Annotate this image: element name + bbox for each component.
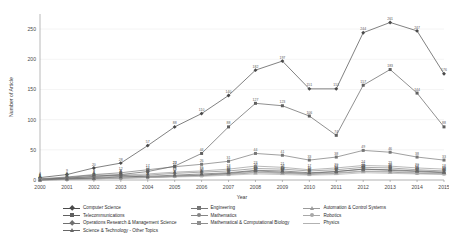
line-chart-svg: 0501001502002502000200120022003200420052…: [0, 0, 449, 200]
x-axis-tick-label: 2007: [223, 184, 234, 190]
legend-item[interactable]: Computer Science: [63, 205, 176, 211]
chart-root: 0501001502002502000200120022003200420052…: [0, 0, 449, 246]
data-point: [308, 159, 311, 162]
legend-item[interactable]: Automation & Control Systems: [303, 205, 386, 211]
data-point-label: 49: [361, 145, 365, 149]
y-axis-tick-label: 100: [28, 117, 37, 123]
x-axis-tick-label: 2003: [115, 184, 126, 190]
data-point: [254, 102, 257, 105]
data-point-label: 44: [200, 148, 204, 152]
data-point: [335, 156, 338, 159]
data-point: [227, 160, 230, 163]
data-point: [389, 68, 392, 71]
legend-label: Mathematical & Computational Biology: [211, 220, 290, 226]
legend-item[interactable]: Science & Technology - Other Topics: [63, 228, 176, 234]
data-point: [253, 173, 258, 174]
data-point: [443, 125, 446, 128]
legend-item[interactable]: Physics: [303, 220, 386, 226]
data-point: [416, 92, 419, 95]
legend-item[interactable]: Engineering: [191, 205, 290, 211]
data-point-label: 106: [306, 111, 312, 115]
data-point: [443, 159, 446, 162]
x-axis-tick-label: 2010: [304, 184, 315, 190]
legend-label: Computer Science: [83, 205, 121, 211]
legend-marker-icon: [63, 213, 80, 219]
data-point: [389, 151, 392, 154]
data-point: [281, 154, 284, 157]
plot-area: 0501001502002502000200120022003200420052…: [0, 0, 449, 200]
y-axis-tick-label: 0: [33, 177, 36, 183]
data-point-label: 10: [200, 169, 204, 173]
y-axis-tick-label: 250: [28, 26, 37, 32]
data-point: [227, 125, 230, 128]
data-point: [199, 176, 204, 177]
series-7: 01234679121191114131110: [39, 166, 446, 181]
data-point-label: 182: [253, 65, 259, 69]
data-point-label: 123: [279, 100, 285, 104]
data-point: [119, 161, 123, 165]
data-point: [415, 29, 419, 33]
data-point-label: 88: [227, 121, 231, 125]
data-point: [335, 134, 338, 137]
data-point-label: 44: [254, 148, 258, 152]
legend-marker-icon: [63, 205, 80, 211]
data-point-label: 31: [227, 156, 231, 160]
data-point-label: 151: [333, 83, 339, 87]
x-axis-tick-label: 2008: [250, 184, 261, 190]
data-point-label: 17: [388, 164, 392, 168]
data-point-label: 151: [306, 83, 312, 87]
x-axis-tick-label: 2015: [438, 184, 449, 190]
data-point-label: 23: [173, 161, 177, 165]
data-point-label: 26: [200, 159, 204, 163]
data-point-label: 247: [414, 26, 420, 30]
legend-item[interactable]: Robotics: [303, 213, 386, 219]
legend-item[interactable]: Telecommunications: [63, 213, 176, 219]
data-point: [280, 174, 285, 175]
x-axis-tick-label: 2000: [34, 184, 45, 190]
data-point: [226, 175, 231, 176]
data-point: [388, 173, 393, 174]
legend-column-2: Automation & Control SystemsRoboticsPhys…: [303, 205, 386, 234]
data-point-label: 157: [360, 80, 366, 84]
data-point-label: 5: [120, 172, 122, 176]
data-point-label: 0: [39, 175, 41, 179]
legend-item[interactable]: Mathematics: [191, 213, 290, 219]
legend-marker-icon: [191, 205, 208, 211]
data-point: [200, 112, 204, 116]
data-point-label: 14: [334, 166, 338, 170]
data-point-label: 38: [415, 152, 419, 156]
data-point: [388, 21, 392, 25]
x-axis-tick-label: 2002: [88, 184, 99, 190]
data-point-label: 33: [442, 155, 446, 159]
y-axis-tick-label: 150: [28, 86, 37, 92]
data-point-label: 176: [441, 68, 447, 72]
legend-label: Operations Research & Management Science: [83, 220, 176, 226]
legend-marker-icon: [191, 213, 208, 219]
data-point-label: 140: [226, 90, 232, 94]
data-point-label: 74: [334, 130, 338, 134]
data-point-label: 2: [66, 173, 68, 177]
legend-marker-icon: [303, 205, 320, 211]
legend-item[interactable]: Operations Research & Management Science: [63, 220, 176, 226]
data-point: [308, 115, 311, 118]
data-point-label: 20: [92, 163, 96, 167]
data-point-label: 88: [442, 121, 446, 125]
x-axis-tick-label: 2013: [384, 184, 395, 190]
y-axis-tick-label: 200: [28, 56, 37, 62]
data-point-label: 8: [174, 170, 176, 174]
x-axis-tick-label: 2012: [358, 184, 369, 190]
data-point: [307, 175, 312, 176]
data-point-label: 33: [307, 155, 311, 159]
x-axis-tick-label: 2014: [411, 184, 422, 190]
legend-column-1: EngineeringMathematicsMathematical & Com…: [191, 205, 290, 234]
legend-marker-icon: [303, 220, 320, 226]
series-line: [40, 22, 444, 177]
data-point-label: 144: [414, 88, 420, 92]
y-axis-title: Number of Article: [8, 77, 14, 117]
data-point: [442, 174, 447, 175]
data-point: [415, 173, 420, 174]
legend-label: Telecommunications: [83, 213, 125, 219]
series-3: 1369142344881271231067415718314488: [39, 64, 446, 181]
legend-item[interactable]: Mathematical & Computational Biology: [191, 220, 290, 226]
data-point: [334, 87, 338, 91]
